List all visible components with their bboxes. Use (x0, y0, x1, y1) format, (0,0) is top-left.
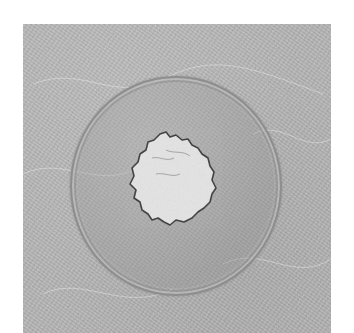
photo (23, 24, 331, 333)
powder-sample (126, 128, 222, 228)
